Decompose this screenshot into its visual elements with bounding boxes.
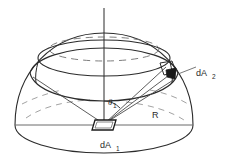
element-dA1-inner <box>95 122 113 128</box>
figure-root: dA 2 dA 1 θ 1 R <box>0 0 229 167</box>
label-radius-R: R <box>152 110 159 120</box>
label-dA2-text: dA <box>196 68 207 78</box>
label-dA1-text: dA <box>100 140 111 150</box>
label-dA2-subscript: 2 <box>212 73 216 80</box>
cone-ray-to-patch-mid <box>104 73 172 124</box>
label-theta1-subscript: 1 <box>113 102 117 109</box>
base-ellipse-back-dashed <box>26 100 90 118</box>
label-dA1-subscript: 1 <box>116 145 120 152</box>
patch-dA2-fill <box>166 68 176 79</box>
dA2-leader-line <box>178 67 196 74</box>
hemisphere-diagram: dA 2 dA 1 θ 1 R <box>0 0 229 167</box>
